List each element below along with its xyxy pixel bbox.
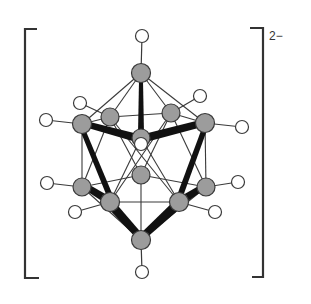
boron-atom [196, 114, 215, 133]
hydrogen-atom [194, 90, 207, 103]
boron-atom [132, 231, 151, 250]
hydrogen-atom [41, 177, 54, 190]
hydrogen-atom [135, 138, 148, 151]
boron-atom [162, 104, 180, 122]
hydrogen-atom [236, 121, 249, 134]
boron-atom [101, 108, 119, 126]
boron-atom [197, 178, 215, 196]
hydrogen-atom [232, 176, 245, 189]
boron-atom [73, 115, 92, 134]
hydrogen-atom [136, 266, 149, 279]
boron-atom [132, 166, 150, 184]
hydrogen-atom [74, 97, 87, 110]
charge-label: 2− [269, 29, 283, 43]
hydrogen-atom [69, 206, 82, 219]
boron-atom [170, 193, 189, 212]
left-bracket [25, 29, 39, 278]
bb-bonds-thin [82, 73, 206, 240]
boron-atom [101, 193, 120, 212]
boron-atom [73, 178, 91, 196]
boron-atom [132, 64, 151, 83]
right-bracket [250, 28, 263, 277]
b12h12-structure-diagram [0, 0, 311, 304]
hydrogen-atom [136, 30, 149, 43]
bb-bonds-wedge [80, 80, 207, 240]
hydrogen-atom [209, 206, 222, 219]
hydrogen-atom [40, 114, 53, 127]
